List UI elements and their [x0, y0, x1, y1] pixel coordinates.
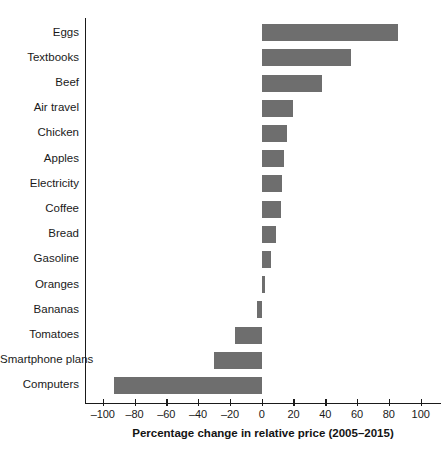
category-label: Computers [0, 378, 79, 390]
x-axis-tick [135, 399, 136, 406]
bar [262, 276, 265, 293]
x-axis-tick [389, 399, 390, 406]
bar [262, 251, 272, 268]
x-axis-tick-label: –80 [126, 408, 144, 420]
x-axis-tick [230, 399, 231, 406]
x-axis-tick-label: 20 [287, 408, 299, 420]
bar [214, 352, 262, 369]
category-label: Electricity [0, 177, 79, 189]
category-label: Bread [0, 227, 79, 239]
category-label: Chicken [0, 126, 79, 138]
category-label: Air travel [0, 101, 79, 113]
category-label: Tomatoes [0, 328, 79, 340]
x-axis-tick-label: –100 [91, 408, 115, 420]
x-axis-tick-label: 0 [259, 408, 265, 420]
x-axis-title: Percentage change in relative price (200… [85, 427, 441, 439]
category-label: Bananas [0, 303, 79, 315]
x-axis-tick-label: –60 [157, 408, 175, 420]
x-axis-tick [421, 399, 422, 406]
bar [257, 301, 262, 318]
bar [262, 150, 284, 167]
bar-chart: EggsTextbooksBeefAir travelChickenApples… [0, 0, 444, 460]
x-axis-tick [198, 399, 199, 406]
x-axis-tick-label: 40 [319, 408, 331, 420]
bar [262, 100, 294, 117]
bar [114, 377, 262, 394]
x-axis-tick-label: 60 [351, 408, 363, 420]
bar [262, 201, 281, 218]
x-axis-tick-label: –40 [189, 408, 207, 420]
bar [262, 75, 322, 92]
x-axis-tick-label: –20 [221, 408, 239, 420]
category-label: Gasoline [0, 252, 79, 264]
x-axis-tick [262, 399, 263, 406]
x-axis-tick [357, 399, 358, 406]
bar [262, 24, 399, 41]
x-axis-tick [166, 399, 167, 406]
x-axis-tick-label: 100 [412, 408, 430, 420]
category-label: Beef [0, 76, 79, 88]
x-axis-tick [103, 399, 104, 406]
x-axis-tick [293, 399, 294, 406]
category-label: Apples [0, 152, 79, 164]
plot-area: EggsTextbooksBeefAir travelChickenApples… [0, 0, 444, 460]
bar [235, 327, 262, 344]
category-label: Oranges [0, 278, 79, 290]
bar [262, 125, 287, 142]
category-axis-line [85, 18, 86, 403]
x-axis-tick-label: 80 [383, 408, 395, 420]
x-axis-tick [325, 399, 326, 406]
bar [262, 175, 283, 192]
category-label: Smartphone plans [0, 353, 79, 365]
category-label: Coffee [0, 202, 79, 214]
bar [262, 226, 276, 243]
bar [262, 49, 351, 66]
category-label: Textbooks [0, 51, 79, 63]
value-axis-line [85, 403, 441, 404]
category-label: Eggs [0, 26, 79, 38]
